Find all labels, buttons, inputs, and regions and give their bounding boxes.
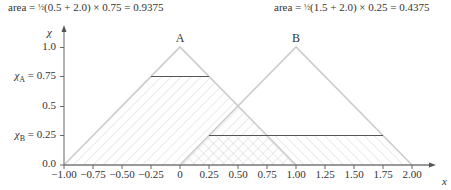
x-tick-label: 1.75 — [373, 168, 392, 180]
hatched-region-b — [176, 135, 416, 165]
x-tick-label: −1.00 — [51, 168, 76, 180]
y-tick-label: 0.5 — [0, 99, 56, 111]
y-axis-arrow-icon — [62, 25, 67, 32]
x-tick-label: −0.75 — [80, 168, 105, 180]
y-tick-label: 1.0 — [0, 40, 56, 52]
x-tick-label: −0.25 — [138, 168, 163, 180]
x-axis-arrow-icon — [429, 163, 436, 168]
y-tick-label: 0.0 — [0, 157, 56, 169]
x-tick-label: 0.75 — [257, 168, 276, 180]
x-tick-label: 0 — [177, 168, 183, 180]
peak-label-a: A — [176, 31, 185, 46]
x-axis-label: x — [442, 175, 447, 187]
y-tick-label-chi-b: χB = 0.25 — [0, 128, 56, 143]
x-tick-label: 1.00 — [286, 168, 305, 180]
tick-value: = 0.25 — [25, 128, 56, 140]
x-tick-label: 1.25 — [315, 168, 334, 180]
x-tick-label: 0.50 — [228, 168, 247, 180]
y-tick-label-chi-a: χA = 0.75 — [0, 69, 56, 84]
x-tick-label: 0.25 — [199, 168, 218, 180]
membership-diagram — [0, 0, 451, 190]
tick-value: = 0.75 — [25, 69, 56, 81]
x-tick-label: −0.50 — [109, 168, 134, 180]
x-tick-label: 2.00 — [402, 168, 421, 180]
y-axis-label: χ — [47, 26, 52, 38]
x-tick-label: 1.50 — [344, 168, 363, 180]
peak-label-b: B — [292, 31, 300, 46]
